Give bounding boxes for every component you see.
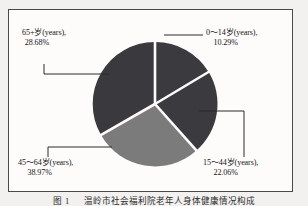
figure-root: 65+岁(years), 28.68% 0～14岁(years), 10.29%… xyxy=(0,0,308,206)
pie-label-45-64: 45～64岁(years), 38.97% xyxy=(18,158,73,178)
pie-label-45-64-text: 45～64岁(years), xyxy=(18,158,73,167)
pie-chart: 65+岁(years), 28.68% 0～14岁(years), 10.29%… xyxy=(0,0,308,206)
figure-caption-number: 图 1 xyxy=(53,196,69,206)
pie-label-15-44-value: 22.06% xyxy=(203,168,258,178)
figure-caption-text: 温岭市社会福利院老年人身体健康情况构成 xyxy=(84,196,255,206)
pie-label-0-14-text: 0～14岁(years), xyxy=(206,28,257,37)
pie-label-65plus-value: 28.68% xyxy=(22,38,66,48)
pie-label-15-44: 15～44岁(years), 22.06% xyxy=(203,158,258,178)
leader-line-45-64 xyxy=(48,147,112,157)
pie-label-0-14: 0～14岁(years), 10.29% xyxy=(206,28,257,48)
pie-label-0-14-value: 10.29% xyxy=(206,38,257,48)
leader-line-65plus xyxy=(44,64,110,74)
pie-label-65plus-text: 65+岁(years), xyxy=(22,28,66,37)
figure-caption: 图 1温岭市社会福利院老年人身体健康情况构成 xyxy=(0,196,308,206)
pie-label-45-64-value: 38.97% xyxy=(18,168,73,178)
pie-label-15-44-text: 15～44岁(years), xyxy=(203,158,258,167)
pie-label-65plus: 65+岁(years), 28.68% xyxy=(22,28,66,48)
